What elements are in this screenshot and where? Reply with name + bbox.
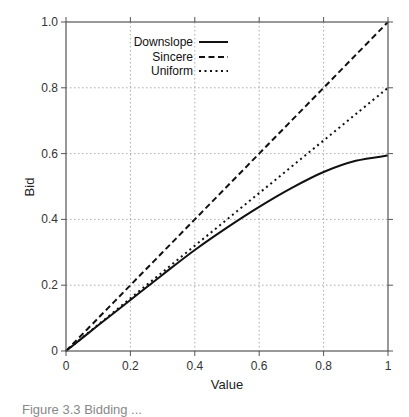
series-downslope [66,156,388,351]
x-tick-label: 1 [385,359,392,373]
y-tick-label: 0 [51,344,58,358]
legend-label: Sincere [152,50,193,64]
x-axis-title: Value [211,377,243,392]
y-tick-label: 1.0 [41,15,58,29]
legend-label: Downslope [134,35,194,49]
x-tick-label: 0.4 [186,359,203,373]
x-tick-label: 0.8 [315,359,332,373]
y-tick-label: 0.4 [41,212,58,226]
y-tick-label: 0.2 [41,278,58,292]
y-tick-label: 0.6 [41,147,58,161]
y-tick-label: 0.8 [41,81,58,95]
x-tick-label: 0.2 [122,359,139,373]
figure-caption: Figure 3.3 Bidding ... [22,402,142,417]
x-tick-label: 0.6 [251,359,268,373]
legend: DownslopeSincereUniform [134,35,228,78]
x-tick-label: 0 [63,359,70,373]
legend-label: Uniform [151,64,193,78]
x-tick-labels: 00.20.40.60.81 [63,359,392,373]
y-axis-title: Bid [22,178,37,197]
y-tick-labels: 00.20.40.60.81.0 [41,15,58,358]
